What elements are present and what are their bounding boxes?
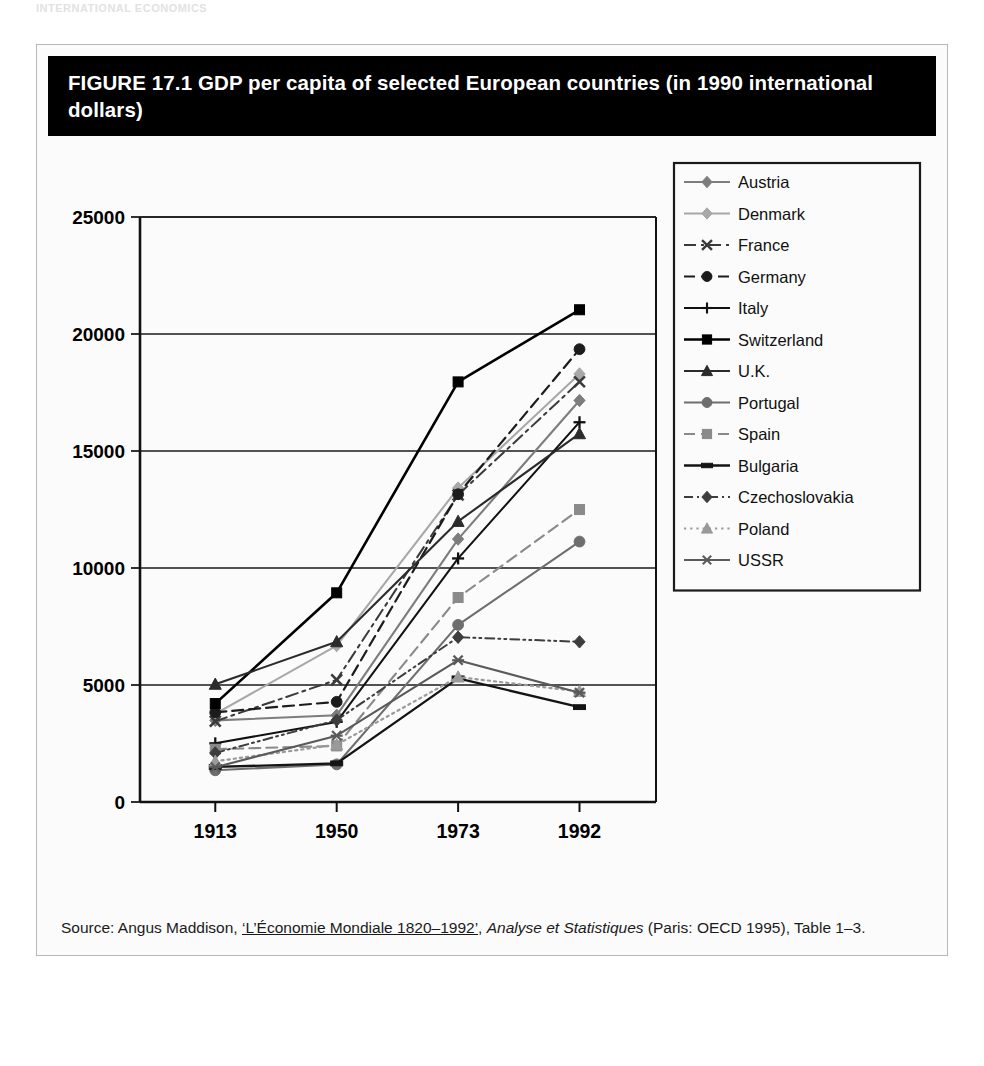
- legend-label: USSR: [738, 551, 784, 569]
- legend-label: Denmark: [738, 205, 806, 223]
- series-line: [215, 660, 579, 767]
- legend-box: [674, 163, 920, 591]
- y-axis-tick-label: 0: [114, 792, 125, 813]
- y-axis-tick-label: 10000: [72, 558, 125, 579]
- y-axis-tick-label: 25000: [72, 207, 125, 228]
- chart-legend: AustriaDenmarkFranceGermanyItalySwitzerl…: [674, 163, 920, 591]
- source-separator: ,: [478, 919, 487, 936]
- figure-title-bar: FIGURE 17.1 GDP per capita of selected E…: [48, 56, 936, 136]
- page-ghost-header: INTERNATIONAL ECONOMICS: [36, 2, 207, 14]
- legend-label: Switzerland: [738, 331, 823, 349]
- y-axis-tick-label: 20000: [72, 324, 125, 345]
- series-line: [215, 401, 579, 721]
- gdp-line-chart: 0500010000150002000025000191319501973199…: [48, 145, 936, 905]
- legend-label: Austria: [738, 173, 790, 191]
- series-austria: [210, 394, 585, 726]
- figure-title: FIGURE 17.1 GDP per capita of selected E…: [68, 69, 916, 124]
- chart-plot-area: 0500010000150002000025000191319501973199…: [48, 145, 936, 905]
- legend-label: Germany: [738, 268, 807, 286]
- legend-label: Bulgaria: [738, 457, 799, 475]
- series-switzerland: [210, 305, 584, 709]
- y-axis-tick-label: 15000: [72, 441, 125, 462]
- y-axis-tick-label: 5000: [83, 675, 125, 696]
- series-spain: [210, 505, 584, 755]
- x-axis-tick-label: 1992: [558, 820, 602, 842]
- figure-container: FIGURE 17.1 GDP per capita of selected E…: [36, 44, 948, 956]
- x-axis-tick-label: 1973: [436, 820, 480, 842]
- series-ussr: [209, 656, 585, 772]
- source-prefix: Source: Angus Maddison,: [61, 919, 242, 936]
- legend-label: Italy: [738, 299, 769, 317]
- legend-label: Poland: [738, 520, 789, 538]
- legend-label: Czechoslovakia: [738, 488, 854, 506]
- figure-source-note: Source: Angus Maddison, ‘L’Économie Mond…: [61, 917, 925, 938]
- source-series-title: Analyse et Statistiques: [487, 919, 644, 936]
- series-line: [215, 434, 579, 685]
- legend-label: France: [738, 236, 789, 254]
- legend-label: Spain: [738, 425, 780, 443]
- series-line: [215, 349, 579, 712]
- series-france: [210, 376, 585, 726]
- source-suffix: (Paris: OECD 1995), Table 1–3.: [644, 919, 866, 936]
- x-axis-tick-label: 1950: [315, 820, 359, 842]
- series-line: [215, 382, 579, 721]
- series-line: [215, 510, 579, 750]
- series-germany: [210, 344, 585, 718]
- x-axis-tick-label: 1913: [194, 820, 238, 842]
- series-line: [215, 310, 579, 704]
- series-u-k-: [209, 428, 585, 690]
- series-line: [215, 374, 579, 714]
- legend-label: U.K.: [738, 362, 770, 380]
- source-work-title: ‘L’Économie Mondiale 1820–1992’: [242, 919, 478, 936]
- legend-label: Portugal: [738, 394, 799, 412]
- series-line: [215, 542, 579, 771]
